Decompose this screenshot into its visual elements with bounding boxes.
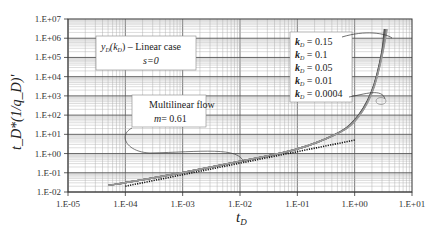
svg-text:yD(kD) – Linear case: yD(kD) – Linear case (100, 41, 182, 53)
svg-text:Multilinear flow: Multilinear flow (149, 99, 216, 110)
x-tick-label: 1.E+00 (342, 199, 369, 209)
legend-item: kD = 0.1 (295, 49, 327, 61)
x-tick-label: 1.E-02 (228, 199, 252, 209)
svg-text:s=0: s=0 (143, 55, 159, 66)
y-tick-label: 1.E+04 (35, 72, 62, 82)
x-tick-label: 1.E-05 (56, 199, 81, 209)
y-tick-label: 1.E+02 (35, 110, 61, 120)
multilinear-flow-annotation: Multilinear flow m= 0.61 (125, 95, 244, 163)
chart: 1.E+071.E+061.E+051.E+041.E+031.E+021.E+… (0, 0, 437, 240)
x-tick-label: 1.E-01 (285, 199, 309, 209)
y-axis-label: t_D*(1/q_D)' (9, 74, 25, 150)
x-axis-label: tD (236, 209, 247, 227)
x-tick-label: 1.E+01 (399, 199, 425, 209)
y-tick-label: 1.E+00 (35, 149, 62, 159)
y-axis-ticks: 1.E+071.E+061.E+051.E+041.E+031.E+021.E+… (35, 14, 68, 197)
y-tick-label: 1.E+07 (35, 14, 62, 24)
x-tick-label: 1.E-04 (113, 199, 138, 209)
y-tick-label: 1.E+03 (35, 91, 62, 101)
y-tick-label: 1.E-02 (37, 187, 61, 197)
legend: kD = 0.15kD = 0.1kD = 0.05kD = 0.01kD = … (290, 32, 352, 102)
y-tick-label: 1.E+01 (35, 129, 61, 139)
y-tick-label: 1.E-01 (37, 168, 61, 178)
y-tick-label: 1.E+06 (35, 33, 62, 43)
y-tick-label: 1.E+05 (35, 52, 62, 62)
x-axis-ticks: 1.E-051.E-041.E-031.E-021.E-011.E+001.E+… (56, 192, 425, 209)
svg-text:m= 0.61: m= 0.61 (154, 113, 187, 124)
linear-case-annotation: yD(kD) – Linear case s=0 (96, 36, 196, 70)
x-tick-label: 1.E-03 (171, 199, 196, 209)
